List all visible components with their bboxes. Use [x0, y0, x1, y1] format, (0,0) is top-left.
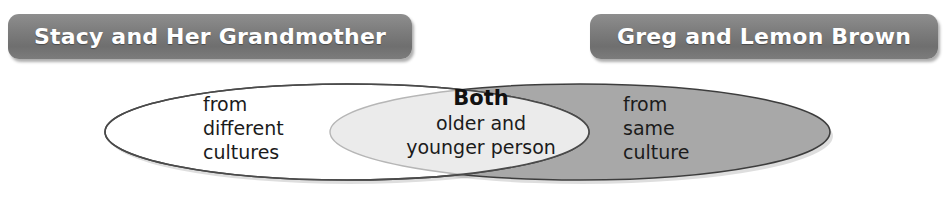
left-only-line-3: cultures — [203, 140, 284, 164]
region-label-overlap: Both older and younger person — [356, 86, 606, 159]
banner-left-label: Stacy and Her Grandmother — [34, 24, 386, 49]
overlap-line-1: older and — [356, 111, 606, 135]
venn-diagram: from different cultures Both older and y… — [0, 72, 945, 212]
banner-right-set: Greg and Lemon Brown — [590, 14, 938, 59]
overlap-line-2: younger person — [356, 135, 606, 159]
banner-right-label: Greg and Lemon Brown — [617, 24, 911, 49]
region-label-right-only: from same culture — [623, 92, 689, 164]
left-only-line-2: different — [203, 116, 284, 140]
left-only-line-1: from — [203, 92, 284, 116]
overlap-heading: Both — [356, 86, 606, 111]
region-label-left-only: from different cultures — [203, 92, 284, 164]
right-only-line-1: from — [623, 92, 689, 116]
right-only-line-2: same — [623, 116, 689, 140]
banner-left-set: Stacy and Her Grandmother — [8, 14, 412, 59]
right-only-line-3: culture — [623, 140, 689, 164]
